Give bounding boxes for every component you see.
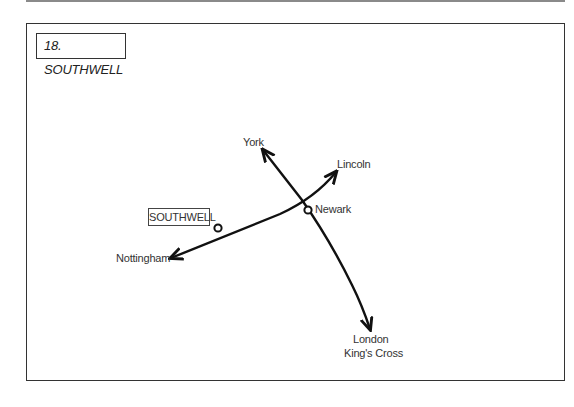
newark-label: Newark: [315, 203, 351, 215]
southwell-label: SOUTHWELL: [148, 208, 210, 226]
nottingham-label: Nottingham: [116, 252, 170, 264]
route-diagram: [0, 0, 574, 407]
kings-cross-label: King's Cross: [344, 347, 403, 359]
york-london-line: [263, 150, 370, 329]
london-label: London: [353, 333, 389, 345]
southwell-location-icon: [214, 224, 221, 231]
york-label: York: [243, 136, 264, 148]
newark-station-icon: [304, 206, 311, 213]
lincoln-label: Lincoln: [337, 158, 370, 170]
